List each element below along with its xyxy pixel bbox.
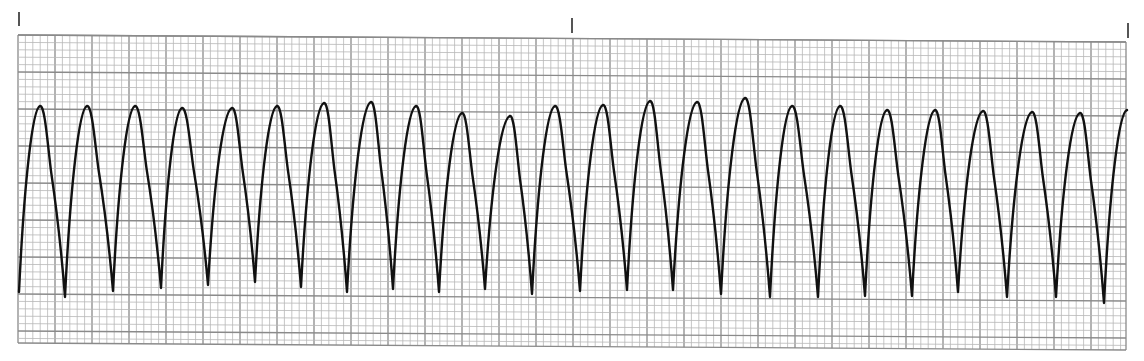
ecg-strip [0,0,1144,361]
time-markers [19,12,1128,38]
ecg-grid-paper [18,35,1126,350]
